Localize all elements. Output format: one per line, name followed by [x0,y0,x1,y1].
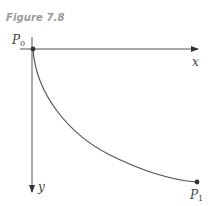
point-p1-marker [195,180,200,185]
cycloid-curve [33,49,197,182]
x-axis-label: x [192,55,199,69]
y-axis-label: y [37,180,45,194]
point-p0-label: P0 [11,33,25,48]
diagram-canvas: P0 P1 x y [0,0,211,206]
point-p1-label: P1 [189,188,203,203]
point-p0-marker [31,47,36,52]
